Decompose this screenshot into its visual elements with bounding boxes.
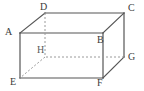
vertex-label-h: H <box>37 45 44 55</box>
cuboid-edges <box>0 0 144 91</box>
vertex-label-a: A <box>5 27 12 37</box>
geometry-figure: ABCDEFGH <box>0 0 144 91</box>
edge-h-e <box>20 57 45 78</box>
edge-d-a <box>20 13 45 33</box>
vertex-label-f: F <box>97 78 103 88</box>
edge-f-g <box>103 57 124 78</box>
vertex-label-g: G <box>128 52 135 62</box>
vertex-label-c: C <box>128 3 135 13</box>
vertex-label-b: B <box>97 35 104 45</box>
edge-b-c <box>103 13 124 33</box>
solid-edge-group <box>20 13 124 78</box>
vertex-label-d: D <box>40 2 47 12</box>
hidden-edge-group <box>20 13 124 78</box>
vertex-label-e: E <box>10 77 16 87</box>
